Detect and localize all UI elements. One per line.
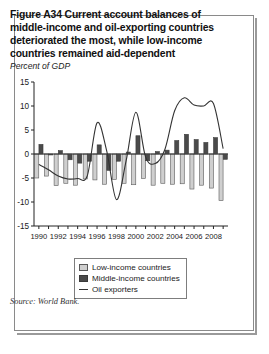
x-tick-label: 2000: [127, 232, 144, 241]
bar: [161, 154, 165, 183]
bar: [39, 144, 43, 154]
current-account-balances-chart: 151050-5-10-15 1990199219941996199820002…: [8, 76, 232, 252]
y-tick-label: 15: [20, 78, 30, 87]
bar: [175, 141, 179, 154]
bar: [78, 154, 82, 163]
x-tick-label: 2004: [166, 232, 183, 241]
legend-swatch-middle-income-icon: [79, 275, 88, 282]
bar: [200, 154, 204, 185]
bar: [151, 154, 155, 185]
x-tick-label: 1992: [50, 232, 67, 241]
y-tick-label: -10: [17, 198, 29, 207]
figure-title: Figure A34 Current account balances of m…: [10, 8, 232, 60]
bar: [103, 154, 107, 184]
y-tick-label: -5: [22, 174, 30, 183]
legend-item-oil-exporters: Oil exporters: [79, 284, 180, 295]
x-tick-label: 1990: [30, 232, 47, 241]
bar: [68, 154, 72, 160]
bar: [126, 152, 130, 154]
x-tick-label: 2002: [147, 232, 164, 241]
legend-item-low-income: Low-income countries: [79, 262, 180, 273]
chart-plot-area: 151050-5-10-15 1990199219941996199820002…: [8, 76, 232, 252]
y-tick-label: 10: [20, 102, 30, 111]
bar: [54, 154, 58, 186]
bar: [35, 154, 39, 178]
bar: [93, 154, 97, 180]
y-tick-label: 0: [24, 150, 29, 159]
y-tick-label: -15: [17, 222, 29, 231]
bar: [155, 152, 159, 154]
bar: [73, 154, 77, 185]
bars-low-income: [35, 154, 223, 201]
bar: [83, 154, 87, 179]
bar: [97, 145, 101, 154]
bar: [141, 154, 145, 178]
legend-item-middle-income: Middle-income countries: [79, 273, 180, 284]
bar: [214, 138, 218, 154]
chart-legend: Low-income countries Middle-income count…: [74, 258, 187, 299]
figure-shadow-right: [255, 18, 257, 333]
bar: [112, 154, 116, 179]
x-tick-label: 2006: [186, 232, 203, 241]
legend-swatch-oil-exporters-icon: [79, 286, 88, 293]
x-tick-label: 1994: [69, 232, 86, 241]
bar: [180, 154, 184, 184]
bar: [209, 154, 213, 188]
bar: [117, 154, 121, 161]
bar: [204, 142, 208, 154]
legend-label-oil-exporters: Oil exporters: [92, 285, 138, 294]
bar: [49, 154, 53, 155]
bar: [165, 150, 169, 154]
bar: [219, 154, 223, 201]
legend-label-low-income: Low-income countries: [92, 263, 171, 272]
bar: [44, 154, 48, 176]
x-tick-label: 2008: [205, 232, 222, 241]
legend-label-middle-income: Middle-income countries: [92, 274, 180, 283]
bar: [223, 154, 227, 159]
figure-shadow-bottom: [17, 333, 257, 335]
legend-swatch-low-income-icon: [79, 264, 88, 271]
axis-units-label: Percent of GDP: [10, 61, 70, 71]
bar: [184, 134, 188, 154]
x-tick-label: 1996: [89, 232, 106, 241]
bar: [58, 151, 62, 154]
bar: [136, 136, 140, 154]
x-axis: 1990199219941996199820002002200420062008: [30, 226, 228, 241]
y-tick-label: 5: [24, 126, 29, 135]
bar: [190, 154, 194, 189]
bar: [170, 154, 174, 184]
x-tick-label: 1998: [108, 232, 125, 241]
y-axis: 151050-5-10-15: [17, 78, 34, 231]
bar: [132, 154, 136, 185]
source-note: Source: World Bank.: [10, 297, 79, 306]
bar: [194, 140, 198, 154]
